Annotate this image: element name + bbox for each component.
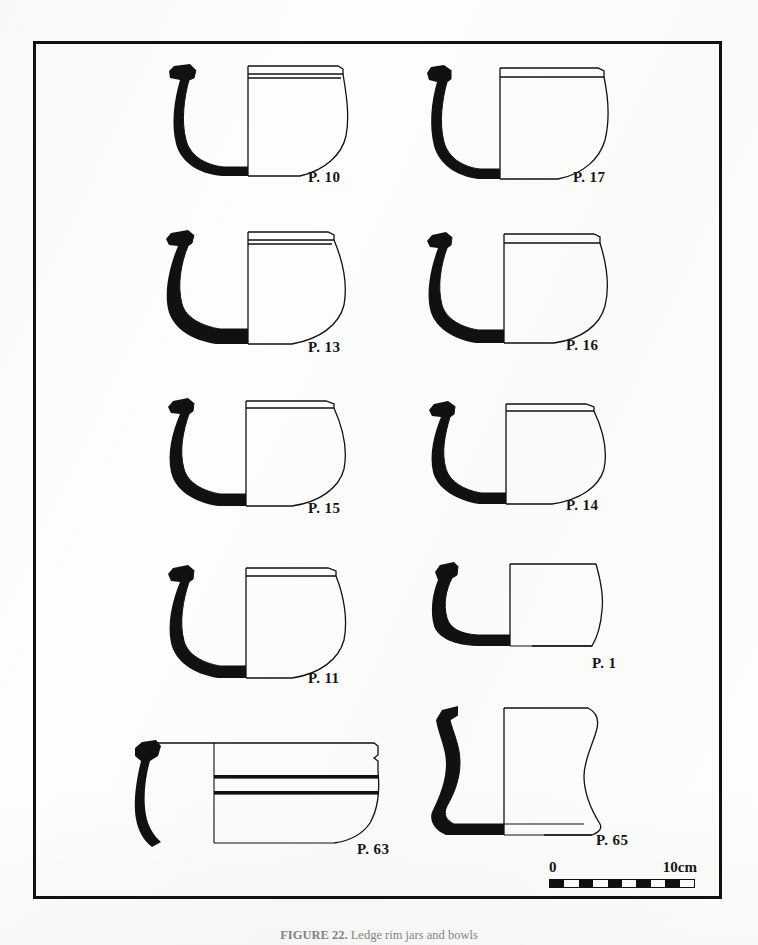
vessel-label-p15: P. 15 bbox=[308, 500, 340, 517]
scale-segment bbox=[564, 880, 578, 887]
scale-segment bbox=[651, 880, 665, 887]
scale-segment bbox=[680, 880, 694, 887]
vessel-label-p65: P. 65 bbox=[596, 832, 628, 849]
scale-segment bbox=[579, 880, 593, 887]
scale-bar-max-label: 10cm bbox=[663, 859, 697, 876]
vessel-label-p14: P. 14 bbox=[566, 497, 598, 514]
vessel-label-p16: P. 16 bbox=[566, 337, 598, 354]
scale-bar-segments bbox=[549, 879, 695, 888]
figure-caption-text: Ledge rim jars and bowls bbox=[351, 928, 478, 942]
scale-segment bbox=[550, 880, 564, 887]
vessel-label-p10: P. 10 bbox=[308, 169, 340, 186]
vessel-label-p13: P. 13 bbox=[308, 339, 340, 356]
vessel-drawing-p16 bbox=[420, 226, 620, 354]
vessel-label-p17: P. 17 bbox=[573, 169, 605, 186]
vessel-drawing-p14 bbox=[422, 394, 622, 514]
vessel-drawing-p15 bbox=[160, 392, 360, 516]
vessel-label-p11: P. 11 bbox=[308, 670, 339, 687]
scale-bar-min-label: 0 bbox=[549, 859, 557, 876]
scale-segment bbox=[622, 880, 636, 887]
figure-caption-label: FIGURE 22. bbox=[280, 928, 347, 942]
vessel-drawing-p13 bbox=[158, 225, 363, 355]
figure-page: P. 10 P. 17 P. 13 P. 1 bbox=[0, 0, 758, 945]
scale-segment bbox=[665, 880, 679, 887]
vessel-drawing-p65 bbox=[424, 700, 624, 845]
figure-caption: FIGURE 22. Ledge rim jars and bowls bbox=[0, 928, 758, 945]
vessel-drawing-p11 bbox=[160, 560, 360, 688]
vessel-drawing-p1 bbox=[424, 556, 624, 668]
scale-segment bbox=[636, 880, 650, 887]
scale-bar: 0 10cm bbox=[549, 862, 695, 894]
scale-segment bbox=[608, 880, 622, 887]
vessel-label-p1: P. 1 bbox=[592, 655, 616, 672]
vessel-drawing-p63 bbox=[128, 735, 393, 850]
scale-segment bbox=[593, 880, 607, 887]
vessel-label-p63: P. 63 bbox=[357, 841, 389, 858]
